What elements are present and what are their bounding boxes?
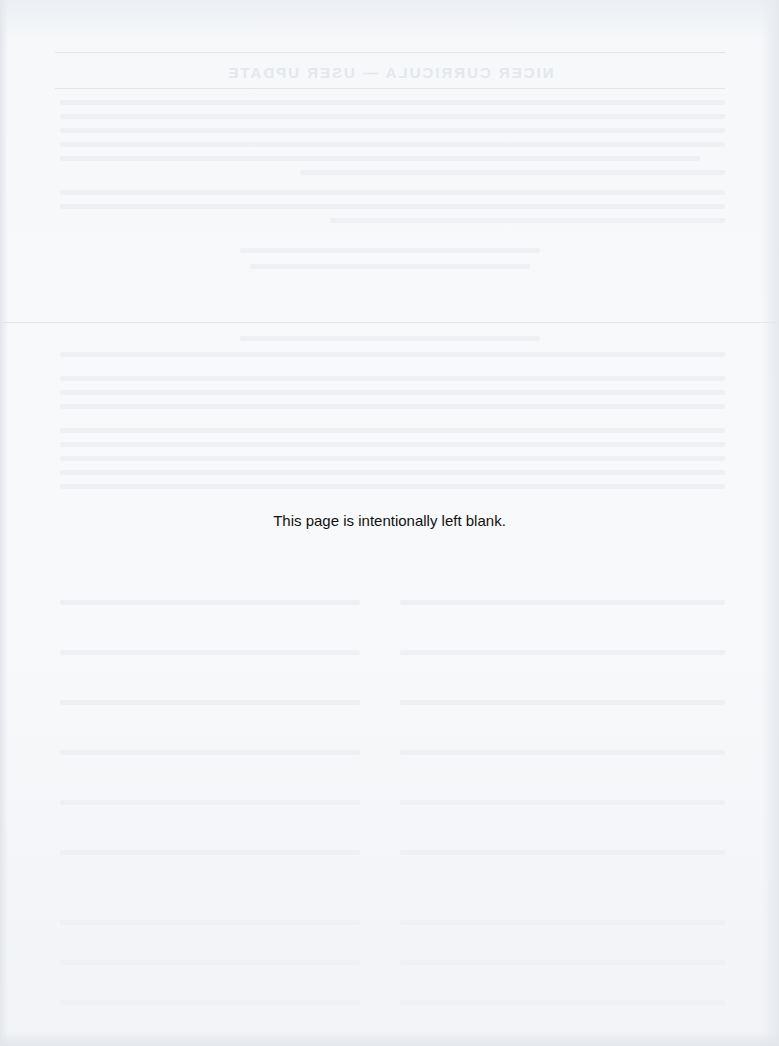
show-through-text-line [400,1000,725,1005]
show-through-text-line [60,850,360,855]
show-through-text-line [60,404,725,409]
show-through-text-line [60,100,725,105]
show-through-text-line [400,800,725,805]
show-through-text-line [240,248,540,253]
show-through-text-line [60,142,725,147]
show-through-text-line [60,1000,360,1005]
show-through-text-line [400,600,725,605]
show-through-text-line [400,700,725,705]
show-through-text-line [60,204,725,209]
scan-edge-bottom [0,1032,779,1046]
show-through-text-line [60,128,725,133]
show-through-text-line [60,156,700,161]
blank-page-notice: This page is intentionally left blank. [0,512,779,529]
scanned-page: NICER CURRICULA — USER UPDATE [0,0,779,1046]
show-through-text-line [240,336,540,341]
show-through-rule [55,52,725,53]
show-through-text-line [400,920,725,925]
show-through-text-line [60,650,360,655]
show-through-text-line [60,428,725,433]
show-through-text-line [60,442,725,447]
show-through-rule [55,88,725,89]
show-through-title: NICER CURRICULA — USER UPDATE [180,64,600,81]
show-through-text-line [400,850,725,855]
show-through-text-line [60,600,360,605]
show-through-text-line [400,960,725,965]
show-through-text-line [400,650,725,655]
show-through-text-line [60,114,725,119]
show-through-text-line [60,750,360,755]
show-through-text-line [60,376,725,381]
show-through-text-line [330,218,725,223]
show-through-text-line [250,264,530,269]
show-through-text-line [60,920,360,925]
show-through-text-line [60,352,725,357]
show-through-text-line [300,170,725,175]
show-through-text-line [60,390,725,395]
show-through-text-line [60,960,360,965]
show-through-text-line [60,190,725,195]
show-through-text-line [400,750,725,755]
show-through-text-line [60,700,360,705]
show-through-text-line [60,800,360,805]
show-through-text-line [60,470,725,475]
show-through-text-line [60,484,725,489]
show-through-text-line [60,456,725,461]
show-through-fold-line [0,322,779,323]
